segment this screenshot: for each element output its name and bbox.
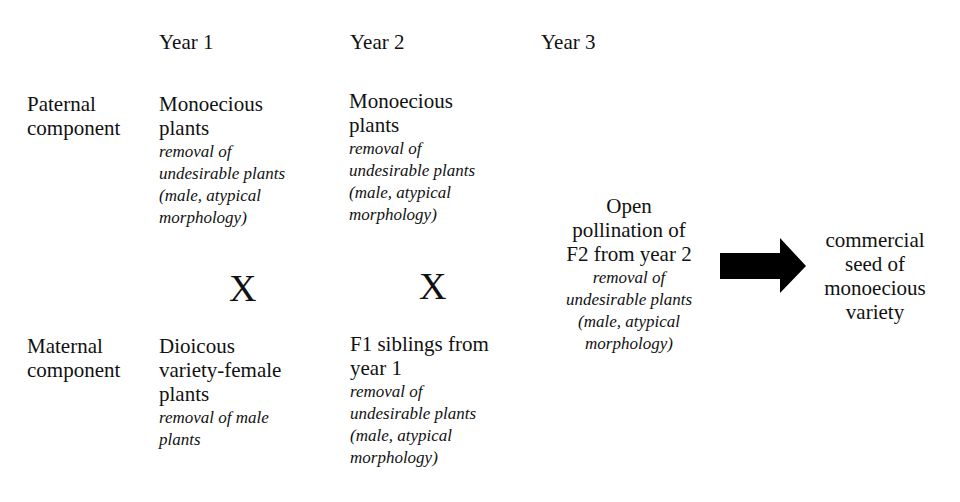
note-line: morphology)	[534, 333, 724, 355]
year1-paternal-title: Monoecious plants	[159, 92, 285, 140]
title-line: pollination of	[534, 218, 724, 242]
note-line: removal of	[159, 141, 285, 163]
result-line: commercial	[810, 228, 940, 252]
year1-paternal-block: Monoecious plants removal of undesirable…	[159, 92, 285, 229]
year2-cross-symbol: X	[419, 266, 446, 306]
result-line: monoecious	[810, 276, 940, 300]
header-year-1: Year 1	[159, 30, 213, 54]
result-line: variety	[810, 300, 940, 324]
year3-title: Open pollination of F2 from year 2	[534, 194, 724, 266]
row-label-line: component	[27, 116, 120, 140]
year2-paternal-block: Monoecious plants removal of undesirable…	[349, 89, 475, 226]
note-line: (male, atypical	[159, 185, 285, 207]
title-line: Monoecious	[159, 92, 285, 116]
note-line: removal of	[534, 267, 724, 289]
year1-cross-symbol: X	[229, 268, 256, 308]
note-line: undesirable plants	[159, 163, 285, 185]
title-line: plants	[159, 116, 285, 140]
title-line: year 1	[350, 356, 489, 380]
year2-maternal-block: F1 siblings from year 1 removal of undes…	[350, 332, 489, 469]
year1-maternal-title: Dioicous variety-female plants	[159, 334, 281, 406]
row-label-maternal: Maternal component	[27, 334, 120, 382]
year3-block: Open pollination of F2 from year 2 remov…	[534, 194, 724, 355]
row-label-line: Maternal	[27, 334, 120, 358]
year1-maternal-block: Dioicous variety-female plants removal o…	[159, 334, 281, 451]
title-line: plants	[159, 382, 281, 406]
header-year-2: Year 2	[350, 30, 404, 54]
title-line: Open	[534, 194, 724, 218]
row-label-paternal: Paternal component	[27, 92, 120, 140]
title-line: plants	[349, 113, 475, 137]
note-line: (male, atypical	[349, 182, 475, 204]
note-line: plants	[159, 429, 281, 451]
note-line: morphology)	[350, 447, 489, 469]
year2-paternal-note: removal of undesirable plants (male, aty…	[349, 138, 475, 226]
year1-paternal-note: removal of undesirable plants (male, aty…	[159, 141, 285, 229]
year2-maternal-note: removal of undesirable plants (male, aty…	[350, 381, 489, 469]
note-line: undesirable plants	[534, 289, 724, 311]
title-line: Monoecious	[349, 89, 475, 113]
row-label-line: component	[27, 358, 120, 382]
note-line: removal of male	[159, 407, 281, 429]
year2-paternal-title: Monoecious plants	[349, 89, 475, 137]
note-line: (male, atypical	[350, 425, 489, 447]
note-line: undesirable plants	[349, 160, 475, 182]
year3-note: removal of undesirable plants (male, aty…	[534, 267, 724, 355]
result-line: seed of	[810, 252, 940, 276]
note-line: removal of	[350, 381, 489, 403]
header-year-3: Year 3	[541, 30, 595, 54]
title-line: F2 from year 2	[534, 242, 724, 266]
result-block: commercial seed of monoecious variety	[810, 228, 940, 324]
title-line: Dioicous	[159, 334, 281, 358]
note-line: removal of	[349, 138, 475, 160]
year2-maternal-title: F1 siblings from year 1	[350, 332, 489, 380]
right-arrow-icon	[718, 237, 808, 299]
note-line: morphology)	[349, 204, 475, 226]
year1-maternal-note: removal of male plants	[159, 407, 281, 451]
title-line: F1 siblings from	[350, 332, 489, 356]
note-line: undesirable plants	[350, 403, 489, 425]
note-line: morphology)	[159, 207, 285, 229]
note-line: (male, atypical	[534, 311, 724, 333]
title-line: variety-female	[159, 358, 281, 382]
row-label-line: Paternal	[27, 92, 120, 116]
